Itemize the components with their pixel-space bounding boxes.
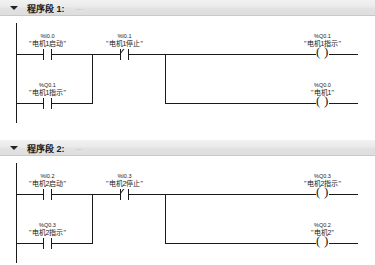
wire-split-to-coil-top-2 xyxy=(165,194,316,195)
contact-stop-nc[interactable] xyxy=(120,49,129,60)
wire-split-to-coil-top xyxy=(165,54,316,55)
wire-stop-to-output-split-2 xyxy=(129,194,165,195)
coil-indicator-label: %Q0.1 "电机1指示" xyxy=(287,33,358,48)
branch-junction-vertical xyxy=(92,54,93,104)
output-split-vertical-2 xyxy=(165,194,166,244)
wire-start-to-junction-2 xyxy=(52,194,92,195)
contact-stop-address: %I0.1 xyxy=(89,33,160,40)
wire-rail-to-start xyxy=(16,54,43,55)
nc-slash-icon-2 xyxy=(120,189,129,200)
network-2-title: 程序段 2: xyxy=(27,142,65,155)
coil-indicator-address-2: %Q0.3 xyxy=(287,173,358,180)
coil-indicator-2[interactable]: ( ) xyxy=(316,188,329,200)
wire-rail-to-latch xyxy=(16,103,43,104)
wire-stop-to-output-split xyxy=(129,54,165,55)
contact-start-label-2: %I0.2 "电机2启动" xyxy=(12,173,83,188)
output-split-vertical xyxy=(165,54,166,104)
coil-motor-symbol-2: "电机2" xyxy=(287,229,358,237)
branch-junction-vertical-2 xyxy=(92,194,93,244)
wire-coil-top-to-right-rail xyxy=(329,54,358,55)
collapse-triangle-icon[interactable] xyxy=(10,6,18,10)
network-1-ladder: %I0.0 "电机1启动" %Q0.1 "电机1指示" %I0.1 "电机1停止… xyxy=(0,15,375,138)
contact-start-symbol: "电机1启动" xyxy=(12,40,83,48)
contact-latch-label-2: %Q0.3 "电机2指示" xyxy=(12,222,83,237)
contact-start-address-2: %I0.2 xyxy=(12,173,83,180)
wire-start-to-junction xyxy=(52,54,92,55)
wire-rail-to-start-2 xyxy=(16,194,43,195)
wire-junction-to-stop-2 xyxy=(92,194,120,195)
contact-latch-address-2: %Q0.3 xyxy=(12,222,83,229)
wire-split-to-coil-bottom xyxy=(165,103,316,104)
coil-motor[interactable]: ( ) xyxy=(316,97,329,109)
coil-motor-label-2: %Q0.2 "电机2" xyxy=(287,222,358,237)
contact-start-symbol-2: "电机2启动" xyxy=(12,180,83,188)
network-2: 程序段 2: ... %I0.2 "电机2启动" %Q0.3 "电机2指示" xyxy=(0,140,375,265)
wire-rail-to-latch-2 xyxy=(16,243,43,244)
contact-start-no[interactable] xyxy=(43,49,52,60)
coil-indicator-label-2: %Q0.3 "电机2指示" xyxy=(287,173,358,188)
contact-latch-symbol: "电机1指示" xyxy=(12,89,83,97)
coil-motor-symbol: "电机1" xyxy=(287,89,358,97)
contact-start-address: %I0.0 xyxy=(12,33,83,40)
contact-start-no-2[interactable] xyxy=(43,189,52,200)
wire-latch-to-junction xyxy=(52,103,92,104)
contact-start-label: %I0.0 "电机1启动" xyxy=(12,33,83,48)
contact-stop-label: %I0.1 "电机1停止" xyxy=(89,33,160,48)
contact-latch-no-2[interactable] xyxy=(43,238,52,249)
network-2-ellipsis: ... xyxy=(76,143,83,152)
coil-indicator-address: %Q0.1 xyxy=(287,33,358,40)
coil-motor-address: %Q0.0 xyxy=(287,82,358,89)
coil-indicator[interactable]: ( ) xyxy=(316,48,329,60)
network-2-ladder: %I0.2 "电机2启动" %Q0.3 "电机2指示" %I0.3 "电机2停止… xyxy=(0,155,375,265)
contact-latch-no[interactable] xyxy=(43,98,52,109)
wire-junction-to-stop xyxy=(92,54,120,55)
contact-latch-symbol-2: "电机2指示" xyxy=(12,229,83,237)
contact-latch-address: %Q0.1 xyxy=(12,82,83,89)
nc-slash-icon xyxy=(120,49,129,60)
coil-motor-label: %Q0.0 "电机1" xyxy=(287,82,358,97)
wire-coil-top-to-right-rail-2 xyxy=(329,194,358,195)
coil-indicator-symbol: "电机1指示" xyxy=(287,40,358,48)
coil-indicator-symbol-2: "电机2指示" xyxy=(287,180,358,188)
wire-split-to-coil-bottom-2 xyxy=(165,243,316,244)
wire-latch-to-junction-2 xyxy=(52,243,92,244)
contact-stop-symbol-2: "电机2停止" xyxy=(89,180,160,188)
coil-motor-2[interactable]: ( ) xyxy=(316,237,329,249)
contact-stop-label-2: %I0.3 "电机2停止" xyxy=(89,173,160,188)
contact-latch-label: %Q0.1 "电机1指示" xyxy=(12,82,83,97)
collapse-triangle-icon-2[interactable] xyxy=(10,146,18,150)
contact-stop-nc-2[interactable] xyxy=(120,189,129,200)
contact-stop-address-2: %I0.3 xyxy=(89,173,160,180)
coil-motor-address-2: %Q0.2 xyxy=(287,222,358,229)
wire-coil-bottom-to-right-rail xyxy=(329,103,358,104)
contact-stop-symbol: "电机1停止" xyxy=(89,40,160,48)
wire-coil-bottom-to-right-rail-2 xyxy=(329,243,358,244)
network-1: 程序段 1: ... %I0.0 "电机1启动" %Q0.1 "电机1指示" xyxy=(0,0,375,138)
network-1-title: 程序段 1: xyxy=(27,2,65,15)
network-1-ellipsis: ... xyxy=(76,3,83,12)
